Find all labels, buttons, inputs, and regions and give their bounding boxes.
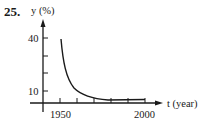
x-axis-arrow-icon <box>155 101 163 106</box>
y-axis-arrow-icon <box>41 19 46 27</box>
chart: y (%) 40 10 1950 2000 t (year) <box>0 0 200 136</box>
y-axis-label: y (%) <box>31 5 55 17</box>
data-curve <box>61 39 145 100</box>
x-tick-label-1950: 1950 <box>50 109 71 120</box>
y-tick-label-40: 40 <box>28 33 39 44</box>
x-tick-label-2000: 2000 <box>134 109 155 120</box>
x-axis-label: t (year) <box>167 98 198 110</box>
y-tick-label-10: 10 <box>28 86 39 97</box>
y-ticks <box>43 38 48 91</box>
